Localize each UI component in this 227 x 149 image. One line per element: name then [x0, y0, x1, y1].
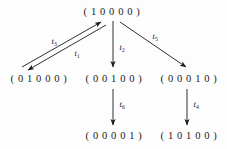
graph-edge-t5-arrow — [120, 22, 186, 67]
transition-index: 4 — [196, 104, 199, 110]
reachability-graph-figure: ( 1 0 0 0 0 )( 0 1 0 0 0 )( 0 0 1 0 0 )(… — [0, 0, 227, 149]
graph-edge-t1-arrow — [28, 25, 106, 70]
graph-node-00001: ( 0 0 0 0 1 ) — [86, 130, 143, 141]
graph-edge-t3-arrow — [22, 22, 101, 67]
graph-edge-t6-label: t6 — [119, 99, 124, 109]
graph-edge-t4-label: t4 — [193, 99, 198, 109]
graph-node-10000: ( 1 0 0 0 0 ) — [84, 6, 141, 17]
transition-index: 2 — [122, 47, 125, 53]
transition-index: 5 — [155, 36, 158, 42]
graph-node-01000: ( 0 1 0 0 0 ) — [11, 73, 68, 84]
transition-index: 1 — [77, 53, 80, 59]
graph-edge-t5-label: t5 — [152, 31, 157, 41]
graph-node-00100: ( 0 0 1 0 0 ) — [86, 73, 143, 84]
graph-edge-t1-label: t1 — [74, 48, 79, 58]
graph-node-10100: ( 1 0 1 0 0 ) — [161, 130, 218, 141]
graph-edge-t3-label: t3 — [51, 36, 56, 46]
graph-node-00010: ( 0 0 0 1 0 ) — [161, 73, 218, 84]
graph-edge-t2-label: t2 — [119, 42, 124, 52]
transition-index: 3 — [54, 41, 57, 47]
transition-index: 6 — [122, 104, 125, 110]
